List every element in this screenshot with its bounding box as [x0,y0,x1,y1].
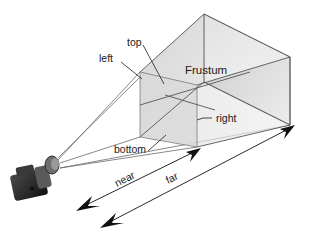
label-far: far [163,169,180,185]
label-right: right [216,112,237,124]
label-top: top [127,36,142,48]
frustum-diagram: top left Frustum right bottom near far [0,0,314,233]
camera-icon [10,156,59,201]
label-frustum: Frustum [185,64,227,76]
left-leader [121,62,142,79]
near-arrow [76,148,201,211]
near-plane [140,72,197,147]
label-bottom: bottom [114,143,146,155]
label-left: left [99,52,113,64]
